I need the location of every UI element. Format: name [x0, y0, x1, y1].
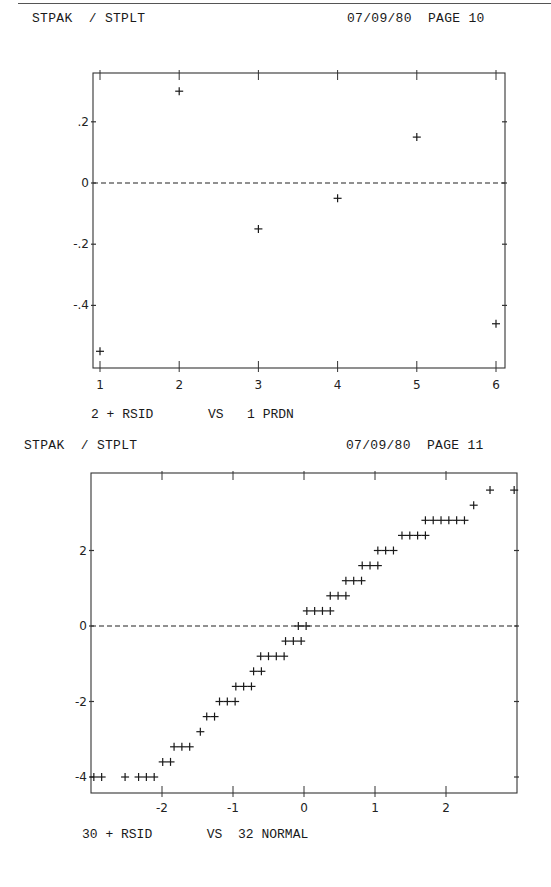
- plus-marker: [121, 773, 129, 781]
- x-tick-label: -1: [227, 801, 239, 815]
- plus-marker: [282, 637, 290, 645]
- plus-marker: [311, 607, 319, 615]
- plus-marker: [382, 547, 390, 555]
- y-tick-label: -.4: [73, 298, 89, 312]
- plus-marker: [203, 713, 211, 721]
- plus-marker: [231, 698, 239, 706]
- plus-marker: [414, 531, 422, 539]
- plus-marker: [302, 622, 310, 630]
- x-tick-label: 4: [334, 378, 342, 392]
- plus-marker: [178, 743, 186, 751]
- plus-marker: [167, 758, 175, 766]
- plus-marker: [358, 577, 366, 585]
- x-tick-label: 3: [255, 378, 263, 392]
- plus-marker: [350, 577, 358, 585]
- plus-marker: [303, 607, 311, 615]
- plus-marker: [289, 637, 297, 645]
- plot-frame: [93, 73, 505, 368]
- plus-marker: [272, 652, 280, 660]
- plus-marker: [453, 516, 461, 524]
- x-tick-label: -2: [156, 801, 168, 815]
- y-tick-label: .2: [78, 115, 89, 129]
- plus-marker: [406, 531, 414, 539]
- plus-marker: [342, 592, 350, 600]
- plus-marker: [216, 698, 224, 706]
- plus-marker: [254, 225, 262, 233]
- plus-marker: [486, 486, 494, 494]
- plus-marker: [196, 728, 204, 736]
- plus-marker: [170, 743, 178, 751]
- plus-marker: [334, 592, 342, 600]
- plus-marker: [186, 743, 194, 751]
- plus-marker: [257, 667, 265, 675]
- plus-marker: [232, 682, 240, 690]
- plus-marker: [398, 531, 406, 539]
- plus-marker: [326, 592, 334, 600]
- plus-marker: [280, 652, 288, 660]
- plus-marker: [297, 637, 305, 645]
- plus-marker: [257, 652, 265, 660]
- y-tick-label: 0: [79, 619, 87, 633]
- plot2-residuals-vs-normal: -2-101220-2-4: [75, 471, 519, 815]
- plus-marker: [374, 562, 382, 570]
- y-tick-label: -2: [75, 695, 87, 709]
- plus-marker: [96, 347, 104, 355]
- y-tick-label: -.2: [73, 237, 89, 251]
- plus-marker: [445, 516, 453, 524]
- plus-marker: [334, 194, 342, 202]
- x-tick-label: 2: [442, 801, 450, 815]
- plus-marker: [470, 501, 478, 509]
- plus-marker: [142, 773, 150, 781]
- plus-marker: [159, 758, 167, 766]
- plus-marker: [326, 607, 334, 615]
- plus-marker: [460, 516, 468, 524]
- plus-marker: [265, 652, 273, 660]
- x-tick-label: 1: [371, 801, 379, 815]
- plus-marker: [413, 133, 421, 141]
- plus-marker: [98, 773, 106, 781]
- plus-marker: [421, 516, 429, 524]
- y-tick-label: -4: [75, 770, 87, 784]
- plot-frame: [91, 473, 517, 793]
- plots-canvas: 123456.20-.2-.4 -2-101220-2-4: [0, 0, 551, 887]
- x-tick-label: 2: [175, 378, 183, 392]
- plus-marker: [135, 773, 143, 781]
- plus-marker: [421, 531, 429, 539]
- plus-marker: [240, 682, 248, 690]
- plus-marker: [294, 622, 302, 630]
- plus-marker: [318, 607, 326, 615]
- plus-marker: [342, 577, 350, 585]
- plus-marker: [389, 547, 397, 555]
- x-tick-label: 5: [413, 378, 421, 392]
- plus-marker: [429, 516, 437, 524]
- y-tick-label: 2: [79, 544, 87, 558]
- plus-marker: [223, 698, 231, 706]
- plus-marker: [358, 562, 366, 570]
- y-tick-label: 0: [81, 176, 89, 190]
- x-tick-label: 1: [96, 378, 104, 392]
- plus-marker: [492, 320, 500, 328]
- plus-marker: [250, 667, 258, 675]
- x-tick-label: 0: [300, 801, 308, 815]
- plot1-residuals-vs-prdn: 123456.20-.2-.4: [73, 70, 507, 392]
- plus-marker: [150, 773, 158, 781]
- plus-marker: [211, 713, 219, 721]
- plus-marker: [175, 87, 183, 95]
- plus-marker: [437, 516, 445, 524]
- x-tick-label: 6: [492, 378, 500, 392]
- plus-marker: [366, 562, 374, 570]
- plus-marker: [247, 682, 255, 690]
- plus-marker: [374, 547, 382, 555]
